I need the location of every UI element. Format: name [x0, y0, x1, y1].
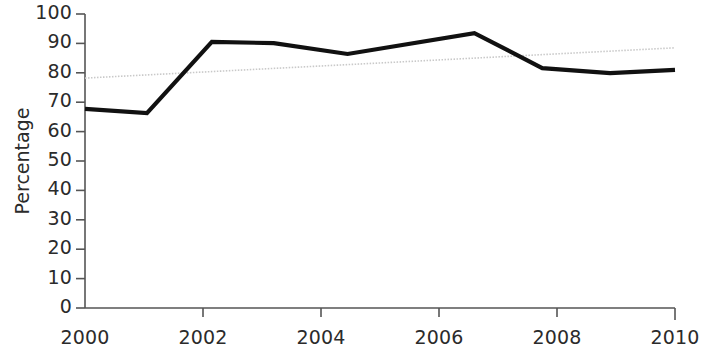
y-axis-tick-label: 20	[28, 236, 72, 258]
y-axis-tick-label: 30	[28, 207, 72, 229]
x-axis-tick-label: 2006	[401, 326, 477, 348]
trend-line	[85, 48, 675, 78]
x-axis-tick-label: 2010	[637, 326, 703, 348]
y-axis-tick-label: 90	[28, 30, 72, 52]
y-axis-tick-label: 40	[28, 177, 72, 199]
y-axis-title: Percentage	[11, 91, 33, 231]
x-axis-tick-label: 2000	[47, 326, 123, 348]
chart-series-group	[85, 33, 675, 113]
x-axis-tick-label: 2004	[283, 326, 359, 348]
x-axis-tick-label: 2008	[519, 326, 595, 348]
data-line	[85, 33, 675, 113]
y-axis-tick-label: 70	[28, 89, 72, 111]
y-axis-tick-label: 10	[28, 266, 72, 288]
y-axis-tick-label: 100	[28, 1, 72, 23]
y-axis-tick-label: 50	[28, 148, 72, 170]
y-axis-ticks	[76, 14, 85, 308]
chart-axes	[76, 14, 675, 320]
y-axis-tick-label: 80	[28, 60, 72, 82]
y-axis-tick-label: 60	[28, 119, 72, 141]
x-axis-tick-label: 2002	[165, 326, 241, 348]
x-axis-ticks	[203, 308, 557, 317]
y-axis-tick-label: 0	[28, 295, 72, 317]
